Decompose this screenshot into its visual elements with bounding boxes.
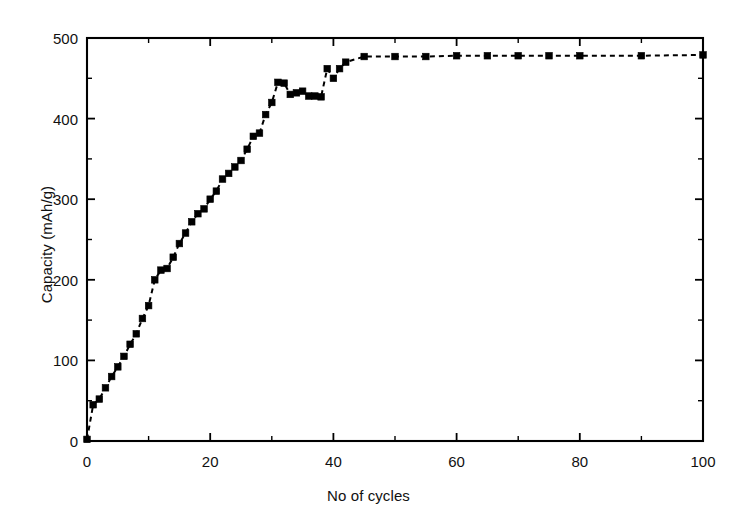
y-tick-label: 200	[20, 271, 78, 288]
y-tick-label: 0	[20, 433, 78, 450]
x-tick-label: 80	[571, 453, 588, 470]
x-tick-label: 0	[83, 453, 91, 470]
y-tick-label: 400	[20, 110, 78, 127]
y-tick-label: 300	[20, 191, 78, 208]
x-tick-label: 40	[325, 453, 342, 470]
y-axis-title: Capacity (mAh/g)	[38, 115, 55, 375]
capacity-vs-cycles-chart: No of cycles Capacity (mAh/g) 0204060801…	[0, 0, 737, 524]
y-tick-label: 500	[20, 30, 78, 47]
chart-background	[0, 0, 737, 524]
x-axis-title: No of cycles	[0, 487, 737, 504]
y-tick-label: 100	[20, 352, 78, 369]
x-tick-label: 20	[202, 453, 219, 470]
plot-canvas	[0, 0, 737, 524]
x-tick-label: 60	[448, 453, 465, 470]
x-tick-label: 100	[690, 453, 715, 470]
